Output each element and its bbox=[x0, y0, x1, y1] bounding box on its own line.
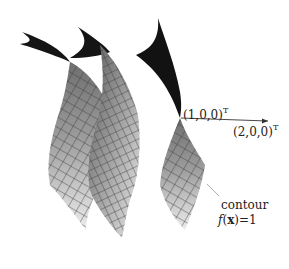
contour-label: contour bbox=[221, 199, 268, 211]
point-label-1-0-0: (1,0,0)T bbox=[183, 108, 228, 121]
contour-leader-line bbox=[207, 184, 219, 196]
contour-equation: f(x)=1 bbox=[218, 214, 257, 226]
point1-text: (1,0,0) bbox=[183, 108, 223, 122]
point-label-2-0-0: (2,0,0)T bbox=[233, 125, 278, 138]
point2-transpose: T bbox=[273, 123, 278, 132]
point1-transpose: T bbox=[223, 106, 228, 115]
surface-sheet-right bbox=[136, 18, 205, 230]
point2-text: (2,0,0) bbox=[233, 125, 273, 139]
fx-equals-one: )=1 bbox=[234, 213, 256, 227]
